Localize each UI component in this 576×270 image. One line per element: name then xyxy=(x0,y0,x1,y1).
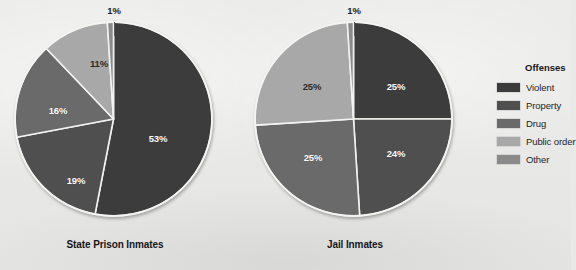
legend-item-drug[interactable]: Drug xyxy=(497,115,576,131)
callout-label-other: 1% xyxy=(347,5,361,16)
legend-item-public-order[interactable]: Public order xyxy=(497,133,576,149)
pie-slice-public-order xyxy=(255,22,354,125)
legend-swatch-icon xyxy=(497,101,520,110)
legend: Offenses ViolentPropertyDrugPublic order… xyxy=(497,62,576,169)
pie-slice-violent xyxy=(354,22,453,119)
legend-item-label: Public order xyxy=(526,136,576,147)
pie-right-svg xyxy=(253,18,458,223)
legend-swatch-icon xyxy=(497,119,520,128)
legend-item-property[interactable]: Property xyxy=(497,97,576,113)
chart-title-jail: Jail Inmates xyxy=(327,239,383,250)
callout-line-other xyxy=(114,22,115,36)
legend-rows: ViolentPropertyDrugPublic orderOther xyxy=(497,79,576,167)
legend-item-label: Drug xyxy=(526,118,546,129)
legend-item-label: Other xyxy=(526,154,549,165)
legend-swatch-icon xyxy=(497,83,520,92)
legend-item-other[interactable]: Other xyxy=(497,151,576,167)
pie-right-wrap: 25% 24% 25% 25% xyxy=(253,18,458,223)
legend-item-violent[interactable]: Violent xyxy=(497,79,576,95)
pie-chart-state-prison: 53% 19% 16% 11% 1% State Prison Inmates xyxy=(13,18,218,223)
pie-slice-property xyxy=(354,119,453,216)
legend-title: Offenses xyxy=(525,62,576,73)
legend-item-label: Violent xyxy=(526,82,554,93)
legend-swatch-icon xyxy=(497,137,520,146)
pie-slice-drug xyxy=(255,119,359,216)
legend-item-label: Property xyxy=(526,100,561,111)
legend-swatch-icon xyxy=(497,155,520,164)
pie-chart-jail: 25% 24% 25% 25% 1% Jail Inmates xyxy=(253,18,458,223)
callout-label-other: 1% xyxy=(107,5,121,16)
pie-left-wrap: 53% 19% 16% 11% xyxy=(13,18,218,223)
callout-line-other xyxy=(354,22,355,36)
pie-left-svg xyxy=(13,18,218,223)
chart-title-state-prison: State Prison Inmates xyxy=(67,239,164,250)
